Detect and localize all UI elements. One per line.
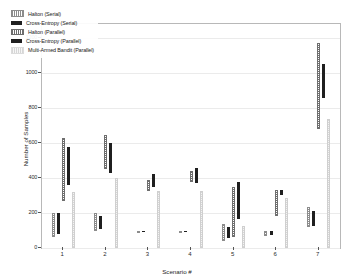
bar [179, 231, 182, 233]
legend-swatch [11, 21, 22, 26]
bar [52, 213, 55, 237]
gridline [42, 143, 340, 144]
bar [307, 207, 310, 227]
legend-item[interactable]: Cross-Entropy (Parallel) [11, 37, 94, 46]
bar [115, 178, 118, 248]
x-tick-label: 2 [90, 251, 120, 257]
bar [137, 231, 140, 233]
bar [109, 143, 112, 173]
x-tick-mark [62, 247, 63, 250]
y-tick-label: 200 [0, 209, 37, 215]
y-tick-mark [38, 107, 41, 108]
bar [222, 224, 225, 241]
bar [232, 187, 235, 237]
bar [72, 192, 75, 248]
legend-label: Halton (Serial) [28, 11, 61, 17]
legend-label: Cross-Entropy (Parallel) [26, 38, 81, 44]
bar [184, 231, 187, 232]
bar [200, 191, 203, 248]
legend-swatch [11, 47, 24, 54]
x-tick-label: 5 [218, 251, 248, 257]
y-tick-label: 400 [0, 174, 37, 180]
y-tick-mark [38, 212, 41, 213]
legend-swatch [11, 39, 22, 44]
bar [99, 216, 102, 229]
x-tick-label: 4 [175, 251, 205, 257]
x-tick-mark [105, 247, 106, 250]
y-tick-mark [38, 142, 41, 143]
bar [62, 138, 65, 201]
chart-figure: Number of Samples Scenario # 02004006008… [0, 0, 354, 277]
y-tick-mark [38, 177, 41, 178]
legend-item[interactable]: Halton (Serial) [11, 9, 94, 18]
x-tick-mark [275, 247, 276, 250]
bar [280, 190, 283, 196]
bar [227, 227, 230, 238]
x-tick-mark [147, 247, 148, 250]
bar [285, 198, 288, 248]
x-tick-label: 3 [132, 251, 162, 257]
x-tick-mark [233, 247, 234, 250]
x-tick-mark [190, 247, 191, 250]
bar [327, 119, 330, 248]
bar [142, 231, 145, 233]
bar [94, 213, 97, 231]
gridline [42, 73, 340, 74]
legend-item[interactable]: Cross-Entropy (Serial) [11, 18, 94, 27]
bar [275, 190, 278, 216]
x-tick-mark [318, 247, 319, 250]
bar [57, 213, 60, 234]
x-axis-label: Scenario # [0, 268, 354, 275]
gridline [42, 248, 340, 249]
legend-swatch [11, 10, 24, 17]
gridline [42, 213, 340, 214]
legend-label: Halton (Parallel) [28, 29, 65, 35]
legend-label: Cross-Entropy (Serial) [26, 20, 77, 26]
y-tick-label: 800 [0, 104, 37, 110]
legend-label: Multi-Armed Bandit (Parallel) [28, 47, 94, 53]
legend-swatch [11, 29, 24, 36]
y-tick-label: 1000 [0, 69, 37, 75]
bar [157, 191, 160, 248]
bar [322, 64, 325, 98]
y-tick-mark [38, 247, 41, 248]
y-tick-label: 600 [0, 139, 37, 145]
x-tick-label: 7 [303, 251, 333, 257]
x-tick-label: 6 [260, 251, 290, 257]
bar [264, 231, 267, 236]
gridline [42, 108, 340, 109]
x-tick-label: 1 [47, 251, 77, 257]
bar [317, 43, 320, 129]
bar [190, 171, 193, 182]
bar [237, 182, 240, 218]
bar [147, 180, 150, 191]
legend-item[interactable]: Halton (Parallel) [11, 27, 94, 36]
legend-item[interactable]: Multi-Armed Bandit (Parallel) [11, 46, 94, 55]
bar [67, 147, 70, 185]
bar [104, 135, 107, 169]
y-tick-label: 0 [0, 244, 37, 250]
chart-legend: Halton (Serial)Cross-Entropy (Serial)Hal… [8, 6, 98, 58]
bar [152, 174, 155, 187]
bar [312, 211, 315, 226]
bar [270, 231, 273, 234]
bar [242, 226, 245, 248]
y-tick-mark [38, 72, 41, 73]
bar [195, 168, 198, 183]
